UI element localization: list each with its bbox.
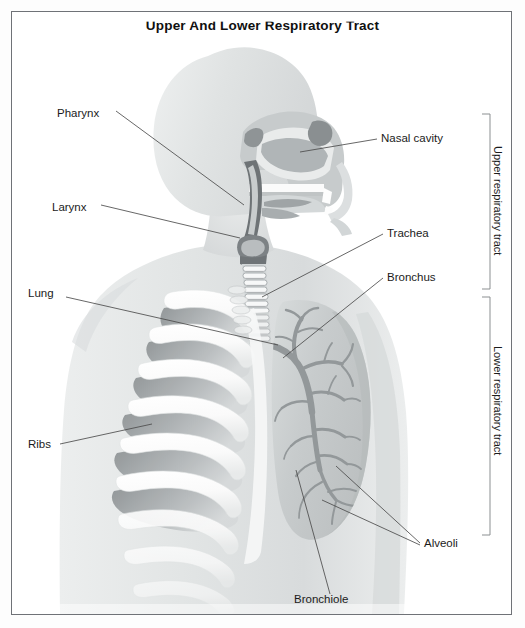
label-nasal-cavity: Nasal cavity [381,133,443,145]
head-sagittal-section [240,112,353,240]
label-alveoli: Alveoli [424,538,458,550]
label-bronchiole: Bronchiole [294,594,348,606]
label-ribs: Ribs [28,439,51,451]
anatomy-illustration [12,12,511,614]
label-pharynx: Pharynx [57,108,99,120]
label-bronchus: Bronchus [387,272,436,284]
bracket-label-lower: Lower respiratory tract [492,346,503,455]
label-lung: Lung [28,288,54,300]
bracket-label-upper: Upper respiratory tract [492,146,503,255]
respiratory-tract-figure: Upper And Lower Respiratory Tract [0,0,525,628]
label-larynx: Larynx [52,202,87,214]
label-trachea: Trachea [387,228,429,240]
